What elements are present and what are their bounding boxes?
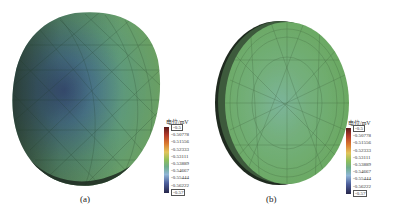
legend-tick: -0.51556 (171, 138, 189, 145)
legend-tick: -0.54667 (353, 168, 371, 175)
legend-tick: -0.53111 (353, 154, 371, 161)
legend-tick: -0.51556 (353, 139, 371, 146)
legend-tick: -0.55444 (353, 175, 371, 182)
legend-max: -0.5 (353, 125, 371, 132)
legend-tick: -0.50778 (171, 131, 189, 138)
legend-min: -0.57 (353, 190, 371, 197)
legend-tick: -0.56222 (171, 182, 189, 189)
legend-tick: -0.53889 (353, 161, 371, 168)
legend-tick: -0.53111 (171, 153, 189, 160)
colorbar (164, 127, 169, 193)
colorbar (346, 128, 351, 194)
legend-tick: -0.52333 (171, 146, 189, 153)
panel-b: 电位/mV -0.5 -0.50778 -0.51556 -0.52333 -0… (200, 0, 394, 217)
legend-tick: -0.50778 (353, 132, 371, 139)
colorbar-ticks: -0.5 -0.50778 -0.51556 -0.52333 -0.53111… (353, 125, 371, 197)
legend-max: -0.5 (171, 124, 189, 131)
legend-tick: -0.56222 (353, 183, 371, 190)
legend-tick: -0.53889 (171, 160, 189, 167)
panel-a: 电位/mV -0.5 -0.50778 -0.51556 -0.52333 -0… (0, 0, 200, 217)
legend-tick: -0.55444 (171, 174, 189, 181)
colorbar-ticks: -0.5 -0.50778 -0.51556 -0.52333 -0.53111… (171, 124, 189, 196)
dome-mesh (0, 0, 200, 217)
legend-tick: -0.52333 (353, 147, 371, 154)
legend-min: -0.57 (171, 189, 189, 196)
caption-b: (b) (266, 194, 277, 204)
legend-tick: -0.54667 (171, 167, 189, 174)
caption-a: (a) (80, 194, 90, 204)
